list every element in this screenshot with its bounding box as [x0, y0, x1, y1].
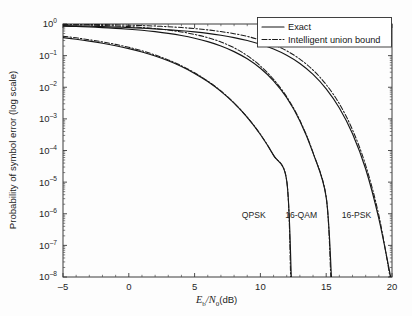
curve-16-psk-exact [63, 26, 391, 277]
y-tick-label: 10–8 [39, 270, 57, 282]
x-tick-label: –5 [58, 281, 69, 292]
chart-svg: –505101520 10010–110–210–310–410–510–610… [0, 0, 412, 316]
y-tick-label: 10–6 [39, 207, 57, 219]
x-tick-label: 0 [126, 281, 131, 292]
chart-figure: –505101520 10010–110–210–310–410–510–610… [0, 0, 412, 316]
y-axis-label: Probability of symbol error (log scale) [7, 71, 18, 229]
curve-label-16-psk: 16-PSK [342, 210, 372, 220]
x-axis-label: Eb/N0(dB) [195, 294, 237, 308]
curve-qpsk-union-bound [63, 36, 291, 277]
curve-annotations: QPSK16-QAM16-PSK [242, 210, 372, 220]
x-axis-tick-labels: –505101520 [58, 281, 398, 292]
y-tick-label: 10–7 [39, 239, 57, 251]
curve-label-qpsk: QPSK [242, 210, 266, 220]
chart-legend: Exact Intelligent union bound [258, 18, 392, 48]
y-tick-label: 10–4 [39, 144, 57, 156]
data-curves [63, 24, 391, 277]
y-tick-label: 10–1 [39, 49, 57, 61]
svg-text:Eb/N0(dB): Eb/N0(dB) [195, 294, 237, 308]
x-tick-label: 10 [255, 281, 266, 292]
y-tick-label: 10–5 [39, 175, 57, 187]
curve-label-16-qam: 16-QAM [285, 210, 317, 220]
y-tick-label: 10–3 [39, 112, 57, 124]
x-axis-ticks [63, 24, 392, 277]
x-tick-label: 20 [387, 281, 398, 292]
y-axis-ticks [63, 24, 392, 277]
y-tick-label: 100 [43, 17, 58, 29]
legend-label-union-bound: Intelligent union bound [288, 35, 380, 45]
legend-label-exact: Exact [288, 22, 311, 32]
x-tick-label: 5 [192, 281, 197, 292]
curve-16-psk-union-bound [63, 24, 390, 277]
y-axis-tick-labels: 10010–110–210–310–410–510–610–710–8 [39, 17, 57, 282]
curve-16-qam-exact [63, 26, 331, 277]
y-tick-label: 10–2 [39, 80, 57, 92]
plot-area-frame [63, 24, 392, 277]
curve-qpsk-exact [63, 38, 291, 277]
x-axis-label-unit: (dB) [219, 294, 237, 305]
x-tick-label: 15 [321, 281, 332, 292]
